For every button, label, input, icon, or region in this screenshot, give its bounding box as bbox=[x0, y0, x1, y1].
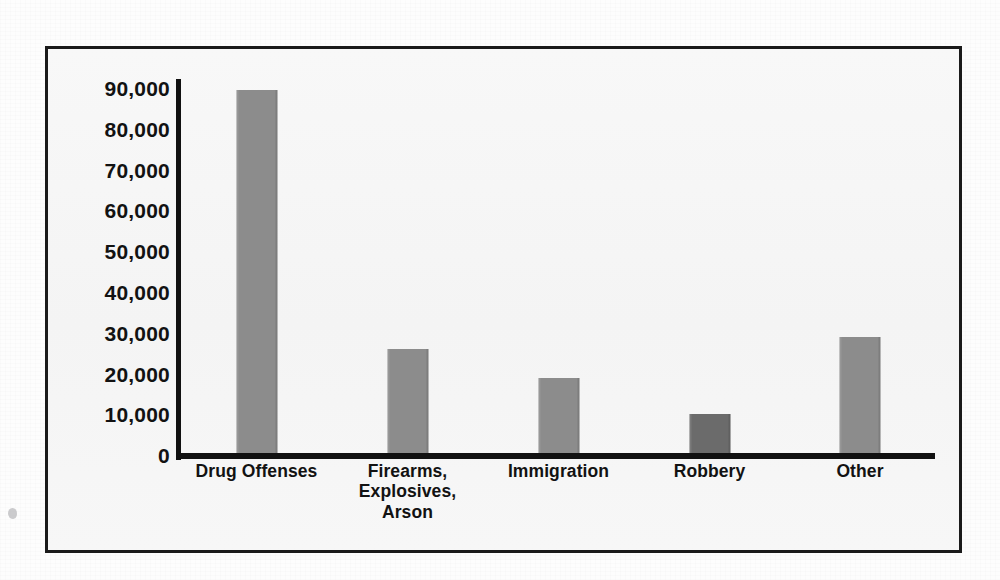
bar-immigration[interactable] bbox=[538, 378, 579, 455]
scan-artifact-speck bbox=[8, 508, 17, 519]
y-tick-label: 30,000 bbox=[58, 323, 170, 344]
x-label-line: Immigration bbox=[508, 461, 609, 481]
bar-robbery[interactable] bbox=[689, 414, 730, 455]
bar-slot bbox=[785, 49, 935, 455]
bar-slot bbox=[181, 49, 332, 455]
plot-area bbox=[181, 49, 935, 455]
x-label-firearms-explosives-arson: Firearms,Explosives,Arson bbox=[332, 461, 483, 522]
bar-slot bbox=[332, 49, 483, 455]
bar-chart: 90,000 80,000 70,000 60,000 50,000 40,00… bbox=[45, 46, 962, 553]
x-axis-line bbox=[176, 453, 935, 459]
y-axis-line bbox=[176, 79, 181, 460]
y-tick-label: 70,000 bbox=[58, 160, 170, 181]
x-label-line: Drug Offenses bbox=[196, 461, 318, 481]
x-label-line: Arson bbox=[382, 502, 433, 522]
x-label-line: Robbery bbox=[674, 461, 746, 481]
bar-firearms-explosives-arson[interactable] bbox=[387, 349, 428, 455]
bar-slot bbox=[634, 49, 785, 455]
y-tick-label: 90,000 bbox=[58, 78, 170, 99]
y-axis-tick-labels: 90,000 80,000 70,000 60,000 50,000 40,00… bbox=[48, 49, 170, 556]
x-label-immigration: Immigration bbox=[483, 461, 634, 481]
x-label-other: Other bbox=[785, 461, 935, 481]
y-tick-label: 10,000 bbox=[58, 404, 170, 425]
x-axis-category-labels: Drug Offenses Firearms,Explosives,Arson … bbox=[181, 461, 935, 556]
x-label-drug-offenses: Drug Offenses bbox=[181, 461, 332, 481]
y-tick-label: 0 bbox=[58, 445, 170, 466]
y-tick-label: 50,000 bbox=[58, 241, 170, 262]
bar-slot bbox=[483, 49, 634, 455]
y-tick-label: 40,000 bbox=[58, 282, 170, 303]
y-tick-label: 20,000 bbox=[58, 364, 170, 385]
bar-other[interactable] bbox=[840, 337, 881, 455]
x-label-line: Firearms, bbox=[368, 461, 448, 481]
y-tick-label: 80,000 bbox=[58, 119, 170, 140]
x-label-line: Explosives, bbox=[359, 481, 456, 501]
bar-drug-offenses[interactable] bbox=[236, 90, 277, 455]
x-label-line: Other bbox=[836, 461, 883, 481]
x-label-robbery: Robbery bbox=[634, 461, 785, 481]
y-tick-label: 60,000 bbox=[58, 200, 170, 221]
scanned-page: 90,000 80,000 70,000 60,000 50,000 40,00… bbox=[0, 0, 1000, 580]
